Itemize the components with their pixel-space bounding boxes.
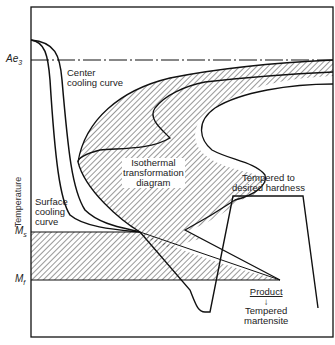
- ae3-marker: Ae3: [6, 53, 22, 66]
- tempered-label: Tempered to desired hardness: [232, 173, 305, 193]
- ms-marker: Ms: [15, 225, 27, 238]
- mf-marker: Mf: [15, 273, 25, 286]
- center-cooling-label: Center cooling curve: [66, 68, 124, 88]
- product-label: Product ↓ Tempered martensite: [244, 287, 288, 326]
- ttt-diagram: Temperature Ae3 Ms Mf Center cooling cur…: [0, 0, 335, 345]
- y-axis-label: Temperature: [13, 172, 23, 232]
- isothermal-diagram-label: Isothermal transformation diagram: [122, 158, 185, 188]
- surface-cooling-label: Surface cooling curve: [35, 197, 68, 227]
- transformation-region: [78, 60, 333, 248]
